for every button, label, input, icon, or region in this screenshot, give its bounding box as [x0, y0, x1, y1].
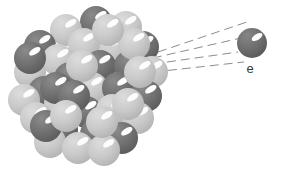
nucleon-light: [92, 14, 124, 46]
nucleon-light: [86, 106, 118, 138]
nucleon-body: [92, 14, 124, 46]
electron-particle: [237, 28, 267, 58]
electron-label: e: [246, 61, 253, 76]
nucleon-light: [66, 50, 98, 82]
nucleon-body: [50, 100, 82, 132]
nucleon-body: [88, 134, 120, 166]
nucleon-light: [112, 88, 144, 120]
nucleon-body: [66, 50, 98, 82]
nucleus-electron-diagram: e: [0, 0, 286, 172]
diagram-canvas: e: [0, 0, 286, 172]
nucleon-body: [14, 42, 46, 74]
nucleon-light: [88, 134, 120, 166]
nucleon-body: [124, 56, 156, 88]
electron-body: [237, 28, 267, 58]
nucleon-light: [50, 100, 82, 132]
nucleon-dark: [14, 42, 46, 74]
nucleon-body: [112, 88, 144, 120]
nucleon-body: [86, 106, 118, 138]
nucleon-light: [124, 56, 156, 88]
